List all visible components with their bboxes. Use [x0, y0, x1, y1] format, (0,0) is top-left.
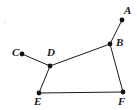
vertex-label-a: A	[124, 5, 131, 16]
vertex-dot-c	[20, 52, 25, 57]
segment-cd	[22, 54, 50, 66]
vertex-dot-d	[48, 64, 53, 69]
vertex-dot-b	[108, 42, 113, 47]
segment-layer	[22, 20, 123, 93]
vertex-dot-f	[121, 90, 126, 95]
geometry-figure: ABCDEF	[0, 0, 137, 110]
segment-ef	[39, 92, 123, 93]
segment-de	[39, 66, 50, 93]
vertex-label-c: C	[12, 47, 19, 58]
segment-db	[50, 44, 110, 66]
vertex-dot-a	[120, 18, 125, 23]
scan-speck	[4, 21, 6, 23]
vertex-label-f: F	[118, 96, 125, 107]
vertex-label-b: B	[116, 37, 123, 48]
vertex-dot-layer	[20, 18, 126, 96]
vertex-label-e: E	[34, 96, 41, 107]
figure-svg	[0, 0, 137, 110]
segment-bf	[110, 44, 123, 92]
vertex-label-d: D	[47, 47, 55, 58]
